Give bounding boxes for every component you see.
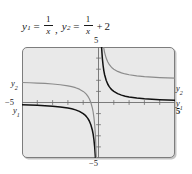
curve-label-y1-left-sub: 1 — [17, 112, 20, 118]
curve-y2-right-branch — [101, 47, 175, 78]
graph-panel — [22, 47, 175, 158]
plus-sign: + — [97, 21, 103, 32]
equals-sign-2: = — [73, 20, 79, 32]
curve-label-y2-right-sub: 2 — [180, 90, 183, 96]
denominator-2: x — [85, 27, 91, 36]
curve-y2-left-branch — [22, 83, 96, 158]
equation-separator: , — [55, 23, 58, 35]
constant-term: 2 — [104, 20, 110, 32]
numerator-2: 1 — [85, 15, 92, 24]
curve-label-y1-right-sub: 1 — [180, 105, 183, 111]
numerator-1: 1 — [45, 15, 52, 24]
equation-y1: y1 = 1 x , — [22, 16, 62, 37]
fraction-one-over-x-1: 1 x — [44, 15, 53, 36]
axes-group — [22, 47, 175, 158]
equals-sign-1: = — [34, 20, 40, 32]
y2-subscript: 2 — [67, 24, 71, 32]
curve-label-y2-right: y2 — [176, 84, 183, 95]
curve-label-y2-left: y2 — [11, 79, 18, 90]
fraction-one-over-x-2: 1 x — [84, 15, 93, 36]
y1-subscript: 1 — [27, 24, 31, 32]
equation-y2: y2 = 1 x + 2 — [62, 16, 110, 37]
axis-label-bottom: −5 — [89, 159, 98, 168]
graph-plot — [22, 47, 175, 158]
denominator-1: x — [45, 27, 51, 36]
curve-label-y1-right: y1 — [176, 99, 183, 110]
curve-label-y1-left: y1 — [13, 106, 20, 117]
curve-label-y2-left-sub: 2 — [15, 85, 18, 91]
curve-y1-left-branch — [22, 105, 95, 158]
axis-label-top: 5 — [94, 36, 98, 45]
curve-y1-right-branch — [102, 47, 175, 100]
